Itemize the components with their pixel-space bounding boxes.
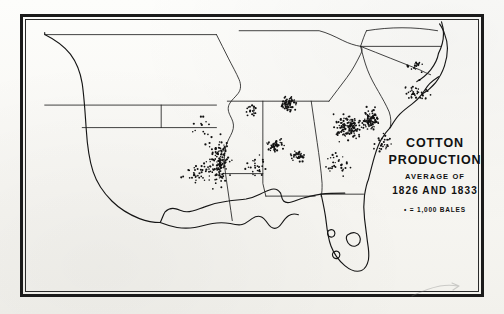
cotton-dot: [327, 158, 329, 160]
cotton-dot: [347, 131, 348, 132]
cotton-dot: [416, 88, 418, 90]
cotton-dot: [361, 122, 363, 124]
cotton-dot: [287, 106, 289, 108]
cotton-dot: [271, 146, 273, 148]
cotton-dot: [372, 113, 374, 115]
cotton-dot: [347, 122, 349, 124]
cotton-dot: [336, 155, 338, 157]
cotton-dot: [244, 168, 246, 170]
cotton-dot: [367, 116, 369, 118]
cotton-dot: [217, 168, 219, 170]
boundary-mississippi-alabama: [263, 101, 266, 196]
cotton-dot: [212, 188, 214, 190]
cotton-dot: [258, 166, 260, 168]
cotton-dot: [193, 173, 195, 175]
cotton-dot: [257, 165, 259, 167]
cotton-dot: [367, 118, 368, 119]
cotton-dot: [345, 128, 347, 130]
cotton-dot: [325, 166, 327, 168]
cotton-dot: [204, 179, 206, 180]
cotton-dot: [417, 90, 419, 92]
cotton-dot: [225, 151, 227, 153]
cotton-dot: [280, 138, 282, 140]
cotton-dot: [279, 142, 280, 143]
cotton-dot: [430, 94, 432, 96]
cotton-dot: [201, 171, 203, 173]
cotton-dot: [353, 133, 354, 134]
cotton-dot: [252, 171, 254, 173]
cotton-dot: [289, 103, 291, 105]
cotton-dot: [299, 161, 301, 163]
cotton-dot: [346, 161, 348, 163]
cotton-dot: [383, 133, 385, 135]
cotton-dot: [216, 156, 218, 158]
cotton-dot: [418, 92, 420, 94]
cotton-dot: [231, 160, 233, 162]
cotton-dot: [373, 143, 375, 145]
cotton-dot: [425, 98, 427, 100]
cotton-dot: [221, 141, 223, 143]
cotton-dot: [425, 89, 427, 91]
cotton-dot: [254, 163, 256, 165]
cotton-dot: [200, 169, 202, 171]
cotton-dot: [340, 131, 342, 133]
cotton-dot: [296, 153, 297, 154]
cotton-dot: [208, 179, 210, 181]
cotton-dot: [252, 160, 253, 161]
cotton-dot: [208, 168, 210, 170]
cotton-dot: [331, 166, 333, 168]
cotton-dot: [192, 131, 194, 133]
cotton-dot: [219, 141, 221, 143]
cotton-dot: [377, 122, 379, 124]
cotton-dot: [229, 174, 231, 176]
legend-title-line-2: PRODUCTION: [383, 153, 487, 167]
cotton-dot: [248, 106, 250, 108]
cotton-dot: [369, 113, 370, 114]
cotton-dot: [251, 104, 253, 106]
cotton-dot: [207, 134, 209, 136]
cotton-dot: [418, 88, 420, 90]
cotton-dot: [411, 90, 413, 92]
cotton-dot: [225, 159, 227, 161]
cotton-dot: [352, 130, 354, 132]
cotton-dot: [333, 157, 335, 159]
cotton-dot: [343, 117, 345, 119]
cotton-dot: [219, 163, 221, 165]
cotton-dot: [329, 167, 331, 169]
map-legend-cartouche: COTTON PRODUCTION AVERAGE OF 1826 AND 18…: [383, 136, 487, 213]
boundary-tennessee-north-carolina: [329, 46, 362, 101]
cotton-dot: [258, 170, 260, 172]
cotton-dot: [281, 142, 283, 144]
cotton-dot: [341, 126, 342, 127]
cotton-dot: [359, 129, 361, 131]
cotton-dot: [286, 107, 288, 109]
cotton-dot: [290, 153, 292, 155]
cotton-dot: [208, 123, 210, 125]
cotton-dot: [283, 145, 285, 147]
cotton-dot: [350, 167, 352, 169]
cotton-dot: [251, 113, 253, 115]
cotton-dot: [373, 148, 375, 150]
cotton-dot: [374, 113, 376, 115]
cotton-dot: [363, 120, 365, 122]
cotton-dot: [372, 125, 374, 126]
cotton-dot: [210, 136, 212, 138]
cotton-dot: [298, 151, 300, 153]
cotton-dot: [274, 151, 276, 153]
cotton-dot: [348, 116, 350, 118]
cotton-dot: [291, 98, 293, 100]
cotton-dot: [363, 124, 365, 126]
cotton-dot: [343, 131, 345, 133]
cotton-dot: [288, 109, 290, 111]
cotton-dot: [219, 160, 221, 162]
cotton-dot: [193, 167, 195, 169]
legend-subtitle: AVERAGE OF: [383, 173, 487, 182]
cotton-dot: [219, 167, 221, 169]
charlotte-harbor-path: [332, 251, 339, 258]
cotton-dot: [414, 63, 416, 65]
cotton-dot: [405, 86, 407, 88]
cotton-dot: [224, 180, 226, 182]
cotton-dot: [254, 165, 256, 167]
cotton-dot: [224, 161, 226, 163]
cotton-dot: [292, 159, 294, 161]
